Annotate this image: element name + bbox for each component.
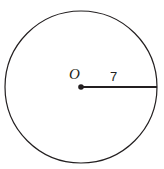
radius-measure-label: 7 bbox=[110, 70, 117, 83]
circle-diagram-svg bbox=[0, 0, 164, 169]
center-point-label: O bbox=[69, 67, 80, 82]
geometry-figure: O 7 bbox=[0, 0, 164, 169]
center-point-dot bbox=[78, 84, 84, 90]
